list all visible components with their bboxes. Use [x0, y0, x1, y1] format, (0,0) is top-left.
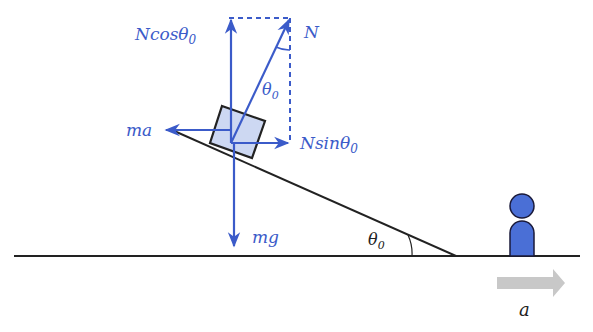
n-cos-label: Ncosθ0	[134, 24, 197, 47]
mg-label: mg	[252, 227, 279, 247]
n-sin-label: Nsinθ0	[299, 133, 358, 156]
theta-incline-label: θ0	[368, 230, 385, 252]
n-angle-arc	[276, 47, 290, 50]
n-label: N	[303, 22, 320, 42]
incline-angle-arc	[408, 235, 412, 256]
theta-n-label: θ0	[262, 80, 279, 102]
acceleration-label: a	[519, 299, 530, 320]
ma-label: ma	[126, 120, 152, 140]
observer-person-icon	[510, 194, 534, 256]
acceleration-arrow-icon	[497, 269, 565, 297]
incline-force-diagram: Ncosθ0 N θ0 ma Nsinθ0 mg θ0 a	[0, 0, 593, 332]
